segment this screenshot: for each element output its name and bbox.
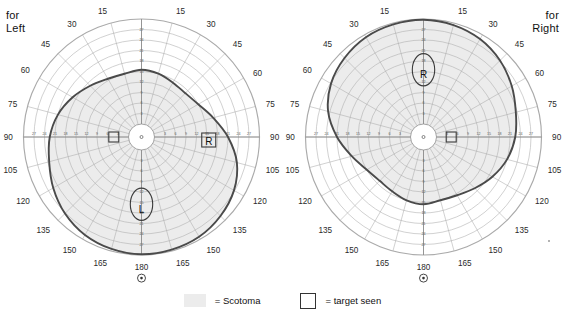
svg-text:R: R xyxy=(420,69,427,80)
svg-text:150: 150 xyxy=(207,246,221,255)
svg-text:9: 9 xyxy=(378,132,380,136)
perimetry-plot-right: 3366991212151518182121242427273366991212… xyxy=(282,0,565,288)
svg-text:27: 27 xyxy=(314,132,318,136)
svg-text:75: 75 xyxy=(8,100,18,109)
svg-text:15: 15 xyxy=(176,7,186,16)
svg-text:45: 45 xyxy=(323,40,333,49)
svg-text:21: 21 xyxy=(422,222,426,226)
svg-text:9: 9 xyxy=(423,91,425,95)
svg-text:18: 18 xyxy=(422,59,426,63)
svg-text:135: 135 xyxy=(233,226,247,235)
svg-text:12: 12 xyxy=(140,80,144,84)
svg-text:75: 75 xyxy=(548,100,558,109)
stray-dot xyxy=(548,240,550,242)
svg-text:45: 45 xyxy=(515,40,525,49)
svg-text:30: 30 xyxy=(67,20,77,29)
svg-text:15: 15 xyxy=(356,132,360,136)
svg-text:12: 12 xyxy=(422,190,426,194)
svg-text:18: 18 xyxy=(64,132,68,136)
svg-text:15: 15 xyxy=(98,7,108,16)
svg-text:150: 150 xyxy=(63,246,77,255)
svg-text:21: 21 xyxy=(335,132,339,136)
svg-text:75: 75 xyxy=(266,100,276,109)
svg-text:90: 90 xyxy=(4,133,14,142)
svg-text:24: 24 xyxy=(422,232,426,236)
svg-text:24: 24 xyxy=(140,38,144,42)
svg-text:105: 105 xyxy=(286,166,300,175)
svg-text:60: 60 xyxy=(21,66,31,75)
svg-text:180: 180 xyxy=(417,263,431,272)
svg-text:27: 27 xyxy=(140,243,144,247)
svg-text:18: 18 xyxy=(140,59,144,63)
svg-text:150: 150 xyxy=(489,246,503,255)
svg-text:150: 150 xyxy=(345,246,359,255)
svg-text:21: 21 xyxy=(422,49,426,53)
svg-text:15: 15 xyxy=(422,201,426,205)
svg-text:21: 21 xyxy=(226,132,230,136)
scotoma-legend-label: = Scotoma xyxy=(215,295,261,306)
svg-text:6: 6 xyxy=(423,169,425,173)
svg-text:120: 120 xyxy=(253,197,267,206)
svg-text:3: 3 xyxy=(141,159,143,163)
svg-text:45: 45 xyxy=(41,40,51,49)
svg-text:30: 30 xyxy=(489,20,499,29)
eye-label-right: for Right xyxy=(532,9,559,34)
target-seen-swatch xyxy=(300,293,316,309)
svg-text:24: 24 xyxy=(237,132,241,136)
legend: = Scotoma = target seen xyxy=(0,288,565,313)
svg-text:6: 6 xyxy=(457,132,459,136)
svg-text:24: 24 xyxy=(519,132,523,136)
svg-text:60: 60 xyxy=(535,69,545,78)
svg-text:9: 9 xyxy=(185,132,187,136)
target-seen-legend-label: = target seen xyxy=(325,295,381,306)
visual-field-chart-page: for Left 3366991212151518182121242427273… xyxy=(0,0,565,313)
svg-text:15: 15 xyxy=(140,70,144,74)
perimetry-plot-left: 3366991212151518182121242427273366991212… xyxy=(0,0,283,288)
eye-label-left: for Left xyxy=(6,9,25,34)
svg-text:15: 15 xyxy=(380,7,390,16)
svg-text:27: 27 xyxy=(529,132,533,136)
svg-text:120: 120 xyxy=(298,197,312,206)
svg-text:18: 18 xyxy=(422,211,426,215)
chart-right-eye: for Right 336699121215151818212124242727… xyxy=(282,0,565,288)
svg-text:9: 9 xyxy=(141,180,143,184)
svg-text:120: 120 xyxy=(16,197,30,206)
svg-text:18: 18 xyxy=(346,132,350,136)
svg-text:27: 27 xyxy=(32,132,36,136)
scotoma-swatch xyxy=(184,294,206,307)
svg-text:165: 165 xyxy=(176,259,190,268)
svg-text:3: 3 xyxy=(164,132,166,136)
svg-text:105: 105 xyxy=(4,166,18,175)
svg-text:60: 60 xyxy=(253,69,263,78)
svg-text:24: 24 xyxy=(422,38,426,42)
svg-text:21: 21 xyxy=(53,132,57,136)
svg-text:105: 105 xyxy=(266,166,280,175)
svg-text:9: 9 xyxy=(141,91,143,95)
svg-text:165: 165 xyxy=(375,259,389,268)
svg-text:6: 6 xyxy=(107,132,109,136)
svg-text:6: 6 xyxy=(141,169,143,173)
svg-text:6: 6 xyxy=(141,101,143,105)
svg-text:135: 135 xyxy=(318,226,332,235)
svg-text:9: 9 xyxy=(96,132,98,136)
chart-left-eye: for Left 3366991212151518182121242427273… xyxy=(0,0,283,288)
svg-text:21: 21 xyxy=(140,49,144,53)
svg-text:30: 30 xyxy=(349,20,359,29)
svg-text:12: 12 xyxy=(367,132,371,136)
svg-text:27: 27 xyxy=(140,28,144,32)
svg-text:12: 12 xyxy=(85,132,89,136)
svg-text:3: 3 xyxy=(141,112,143,116)
svg-text:12: 12 xyxy=(422,80,426,84)
svg-text:9: 9 xyxy=(467,132,469,136)
svg-text:6: 6 xyxy=(389,132,391,136)
svg-text:27: 27 xyxy=(247,132,251,136)
svg-text:165: 165 xyxy=(458,259,472,268)
svg-text:24: 24 xyxy=(325,132,329,136)
svg-text:120: 120 xyxy=(535,197,549,206)
svg-text:27: 27 xyxy=(422,28,426,32)
svg-text:21: 21 xyxy=(140,222,144,226)
svg-text:135: 135 xyxy=(36,226,50,235)
svg-text:12: 12 xyxy=(195,132,199,136)
svg-text:L: L xyxy=(139,204,145,215)
svg-text:24: 24 xyxy=(140,232,144,236)
